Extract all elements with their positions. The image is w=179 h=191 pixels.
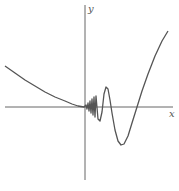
function-curve [5,31,168,145]
x-axis-label: x [169,109,175,119]
chart-plot [0,0,179,191]
y-axis-label: y [88,4,94,14]
